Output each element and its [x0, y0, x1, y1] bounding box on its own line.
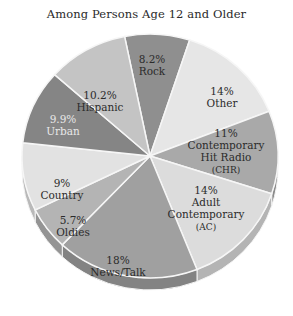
svg-text:Adult: Adult [191, 196, 221, 208]
svg-text:(CHR): (CHR) [212, 165, 241, 175]
svg-text:Hispanic: Hispanic [77, 101, 124, 113]
svg-text:Hit Radio: Hit Radio [201, 151, 252, 163]
pie-chart: 8.2%Rock14%Other11%ContemporaryHit Radio… [0, 0, 293, 316]
svg-text:Contemporary: Contemporary [188, 139, 265, 151]
svg-text:Other: Other [207, 97, 239, 109]
slice-label: 9.9%Urban [46, 113, 80, 137]
svg-text:Oldies: Oldies [56, 226, 90, 238]
svg-text:11%: 11% [214, 127, 237, 139]
svg-text:10.2%: 10.2% [83, 89, 116, 101]
svg-text:18%: 18% [106, 254, 129, 266]
svg-text:Country: Country [40, 189, 83, 201]
svg-text:9%: 9% [54, 177, 71, 189]
svg-text:Contemporary: Contemporary [168, 208, 245, 220]
svg-text:Urban: Urban [46, 125, 80, 137]
svg-text:8.2%: 8.2% [139, 53, 166, 65]
svg-text:News/Talk: News/Talk [90, 266, 146, 278]
slice-label: 5.7%Oldies [56, 214, 90, 238]
svg-text:(AC): (AC) [196, 222, 216, 232]
svg-text:5.7%: 5.7% [60, 214, 87, 226]
slice-label: 14%Other [207, 85, 239, 109]
svg-text:14%: 14% [210, 85, 233, 97]
svg-text:9.9%: 9.9% [50, 113, 77, 125]
svg-text:Rock: Rock [139, 65, 166, 77]
slice-label: 8.2%Rock [139, 53, 166, 77]
slice-label: 10.2%Hispanic [77, 89, 124, 113]
svg-text:14%: 14% [194, 184, 217, 196]
